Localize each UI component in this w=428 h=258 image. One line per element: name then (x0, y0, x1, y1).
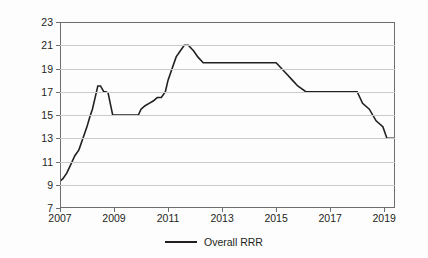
y-tick-mark (56, 69, 60, 70)
plot-area (60, 22, 395, 208)
y-tick-mark (56, 45, 60, 46)
y-tick-label: 19 (27, 64, 53, 74)
gridline (60, 162, 395, 163)
y-tick-label: 17 (27, 87, 53, 97)
legend-label-overall-rrr: Overall RRR (204, 236, 263, 248)
y-tick-label: 23 (27, 17, 53, 27)
chart-legend: Overall RRR (0, 236, 428, 248)
y-tick-label: 21 (27, 40, 53, 50)
y-tick-mark (56, 138, 60, 139)
x-tick-label: 2007 (40, 213, 80, 224)
gridline (60, 69, 395, 70)
y-tick-mark (56, 115, 60, 116)
y-tick-label: 13 (27, 133, 53, 143)
x-tick-label: 2019 (364, 213, 404, 224)
gridline (60, 138, 395, 139)
gridline (60, 185, 395, 186)
gridline (60, 115, 395, 116)
y-tick-label: 11 (27, 157, 53, 167)
y-tick-mark (56, 92, 60, 93)
gridline (60, 92, 395, 93)
gridline (60, 45, 395, 46)
chart-figure: Required reserve ratio (%) 7911131517192… (0, 0, 428, 258)
legend-line-swatch (165, 241, 197, 243)
y-tick-mark (56, 185, 60, 186)
x-tick-label: 2015 (256, 213, 296, 224)
y-tick-label: 15 (27, 110, 53, 120)
y-tick-mark (56, 162, 60, 163)
x-tick-label: 2011 (148, 213, 188, 224)
x-tick-label: 2013 (202, 213, 242, 224)
x-tick-label: 2017 (310, 213, 350, 224)
x-tick-label: 2009 (94, 213, 134, 224)
y-tick-mark (56, 22, 60, 23)
y-tick-label: 9 (27, 180, 53, 190)
